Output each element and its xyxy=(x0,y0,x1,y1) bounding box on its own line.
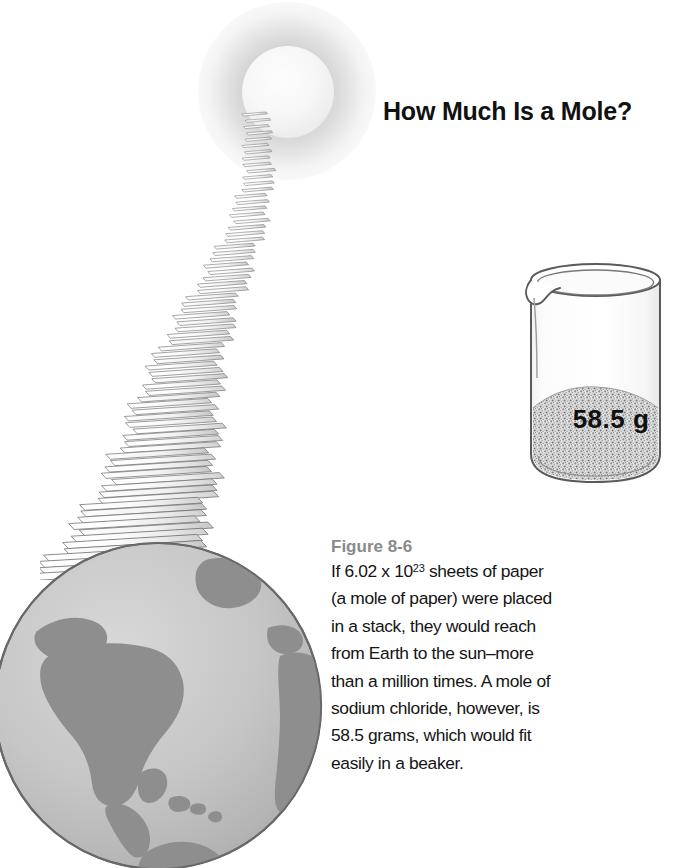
paper-sheet xyxy=(247,131,273,135)
paper-stack-illustration xyxy=(40,110,290,580)
beaker-mass-label: 58.5 g xyxy=(520,404,675,434)
paper-sheet xyxy=(233,206,267,211)
paper-sheet xyxy=(242,112,268,116)
paper-sheet xyxy=(243,162,272,167)
paper-sheet xyxy=(245,137,272,141)
paper-sheet xyxy=(225,237,265,243)
caption-rest: sheets of paper (a mole of paper) were p… xyxy=(331,561,552,773)
paper-sheet xyxy=(172,312,229,320)
paper-sheet xyxy=(230,212,265,217)
paper-sheet xyxy=(228,225,265,231)
paper-sheet xyxy=(247,168,276,173)
beaker-illustration xyxy=(520,258,675,490)
page-title: How Much Is a Mole? xyxy=(380,96,635,127)
paper-sheet xyxy=(198,287,249,294)
paper-sheet xyxy=(182,299,236,306)
beaker-contents-salt xyxy=(533,387,658,482)
paper-sheet xyxy=(186,293,239,300)
caption-exponent: 23 xyxy=(413,562,425,574)
paper-sheet xyxy=(242,156,270,161)
paper-sheet xyxy=(213,249,255,255)
paper-sheet xyxy=(245,118,270,122)
paper-sheet xyxy=(198,281,247,288)
paper-sheet xyxy=(208,268,255,275)
paper-sheet xyxy=(226,231,265,237)
figure-caption-text: If 6.02 x 1023 sheets of paper (a mole o… xyxy=(331,558,651,777)
paper-sheet xyxy=(214,243,255,249)
figure-number-label: Figure 8-6 xyxy=(331,536,651,557)
paper-sheet xyxy=(210,256,254,262)
paper-sheet xyxy=(244,181,275,186)
paper-sheet xyxy=(234,218,271,223)
beaker-rim-inner xyxy=(538,270,654,295)
paper-sheet xyxy=(235,193,268,198)
paper-sheet xyxy=(203,274,251,281)
earth-illustration xyxy=(0,536,324,868)
paper-sheet-layers xyxy=(40,112,276,580)
paper-sheet xyxy=(242,187,274,192)
paper-sheet xyxy=(236,200,269,205)
caption-prefix: If 6.02 x 10 xyxy=(331,561,413,581)
paper-sheet xyxy=(243,175,273,180)
figure-caption: Figure 8-6 If 6.02 x 1023 sheets of pape… xyxy=(331,536,651,777)
paper-sheet xyxy=(242,143,269,147)
paper-sheet xyxy=(244,125,270,129)
paper-sheet xyxy=(245,150,272,154)
paper-sheet xyxy=(181,305,237,312)
paper-sheet xyxy=(204,262,249,268)
